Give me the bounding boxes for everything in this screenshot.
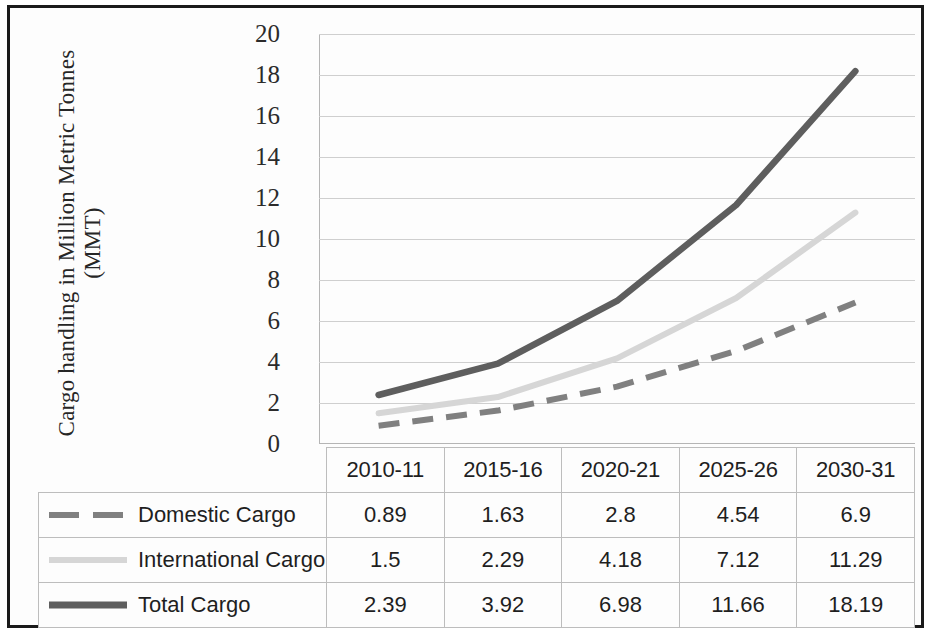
y-tick-2: 2 [228,389,280,417]
legend-label-international-cargo: International Cargo [138,547,325,573]
legend-marker-dashed-line-icon [47,506,129,524]
legend-marker-dark-line-icon [47,596,129,614]
table-header-row: 2010-11 2015-16 2020-21 2025-26 2030-31 [39,448,915,493]
legend-cell-international-cargo: International Cargo [39,538,327,583]
table-cell-international-2020-21: 4.18 [562,538,680,583]
y-axis-title-line1: Cargo handling in Million Metric Tonnes [54,50,79,437]
table-header-2010-11: 2010-11 [327,448,445,493]
table-cell-international-2015-16: 2.29 [444,538,562,583]
y-tick-10: 10 [228,225,280,253]
table-cell-international-2010-11: 1.5 [327,538,445,583]
y-tick-16: 16 [228,102,280,130]
chart-lines [319,34,915,444]
table-row: International Cargo 1.5 2.29 4.18 7.12 1… [39,538,915,583]
y-tick-18: 18 [228,61,280,89]
chart-figure: Cargo handling in Million Metric Tonnes … [7,5,924,628]
table-cell-total-2015-16: 3.92 [444,583,562,628]
series-line-domestic-cargo [379,303,856,426]
table-cell-total-2025-26: 11.66 [679,583,797,628]
legend-label-domestic-cargo: Domestic Cargo [138,502,296,528]
table-row: Total Cargo 2.39 3.92 6.98 11.66 18.19 [39,583,915,628]
table-cell-domestic-2025-26: 4.54 [679,493,797,538]
y-tick-20: 20 [228,20,280,48]
series-line-international-cargo [379,213,856,414]
table-cell-domestic-2015-16: 1.63 [444,493,562,538]
y-tick-8: 8 [228,266,280,294]
legend-cell-total-cargo: Total Cargo [39,583,327,628]
table-cell-domestic-2030-31: 6.9 [797,493,915,538]
y-tick-12: 12 [228,184,280,212]
legend-label-total-cargo: Total Cargo [138,592,251,618]
plot-area [319,34,915,444]
y-axis-title: Cargo handling in Million Metric Tonnes … [54,23,114,463]
y-tick-14: 14 [228,143,280,171]
table-row: Domestic Cargo 0.89 1.63 2.8 4.54 6.9 [39,493,915,538]
legend-marker-light-line-icon [47,551,129,569]
table-header-2015-16: 2015-16 [444,448,562,493]
table-cell-international-2030-31: 11.29 [797,538,915,583]
data-table: 2010-11 2015-16 2020-21 2025-26 2030-31 [38,447,915,628]
table-cell-international-2025-26: 7.12 [679,538,797,583]
table-cell-domestic-2010-11: 0.89 [327,493,445,538]
table-header-2025-26: 2025-26 [679,448,797,493]
table-cell-domestic-2020-21: 2.8 [562,493,680,538]
series-line-total-cargo [379,71,856,395]
y-axis-title-line2: (MMT) [80,23,106,463]
table-header-2030-31: 2030-31 [797,448,915,493]
table-cell-total-2030-31: 18.19 [797,583,915,628]
y-tick-4: 4 [228,348,280,376]
legend-cell-domestic-cargo: Domestic Cargo [39,493,327,538]
table-corner-cell [39,448,327,493]
table-cell-total-2010-11: 2.39 [327,583,445,628]
table-header-2020-21: 2020-21 [562,448,680,493]
table-cell-total-2020-21: 6.98 [562,583,680,628]
y-tick-6: 6 [228,307,280,335]
